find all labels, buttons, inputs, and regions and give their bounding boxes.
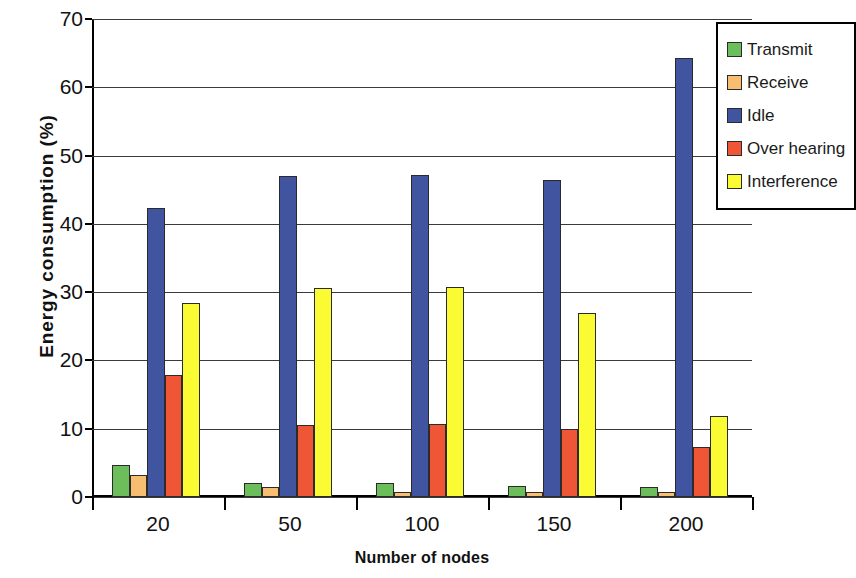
y-axis-tick-mark — [85, 18, 92, 20]
bar[interactable] — [561, 429, 579, 497]
bar[interactable] — [165, 375, 183, 497]
x-axis-tick-label: 50 — [224, 512, 356, 536]
legend-item[interactable]: Interference — [718, 165, 854, 198]
y-axis-tick-label: 10 — [60, 417, 83, 441]
bar[interactable] — [314, 288, 332, 497]
x-axis-tick-labels: 2050100150200 — [92, 512, 752, 536]
x-axis-tick-label: 20 — [92, 512, 224, 536]
bar[interactable] — [578, 313, 596, 497]
bar[interactable] — [508, 486, 526, 497]
bar[interactable] — [640, 487, 658, 497]
y-axis-tick-label: 50 — [60, 144, 83, 168]
bar[interactable] — [429, 424, 447, 497]
x-axis-tick-label: 150 — [488, 512, 620, 536]
legend-item[interactable]: Over hearing — [718, 132, 854, 165]
x-axis-tick-label: 100 — [356, 512, 488, 536]
bar[interactable] — [543, 180, 561, 497]
legend-item[interactable]: Idle — [718, 99, 854, 132]
y-axis-tick-label: 40 — [60, 212, 83, 236]
chart-legend: TransmitReceiveIdleOver hearingInterfere… — [716, 22, 856, 210]
legend-label: Over hearing — [747, 139, 845, 159]
legend-label: Receive — [747, 73, 808, 93]
bar[interactable] — [446, 287, 464, 497]
legend-label: Transmit — [747, 40, 813, 60]
bar-group — [356, 19, 488, 497]
y-axis-tick-mark — [85, 291, 92, 293]
y-axis-tick-label: 20 — [60, 348, 83, 372]
bar-group — [224, 19, 356, 497]
legend-color-swatch — [727, 42, 742, 57]
legend-color-swatch — [727, 141, 742, 156]
bar-group — [488, 19, 620, 497]
bar[interactable] — [376, 483, 394, 497]
x-axis-tick-mark — [488, 497, 490, 510]
legend-color-swatch — [727, 174, 742, 189]
bar[interactable] — [297, 425, 315, 497]
x-axis-ticks — [92, 497, 752, 511]
x-axis-tick-mark — [752, 497, 754, 510]
bar-group-bars — [508, 19, 596, 497]
bar[interactable] — [130, 475, 148, 497]
x-axis-tick-label: 200 — [620, 512, 752, 536]
y-axis-tick-label: 70 — [60, 7, 83, 31]
y-axis-tick-mark — [85, 223, 92, 225]
bar[interactable] — [411, 175, 429, 497]
bar-group-bars — [112, 19, 200, 497]
legend-item[interactable]: Transmit — [718, 33, 854, 66]
x-axis-title: Number of nodes — [92, 549, 752, 567]
bar[interactable] — [244, 483, 262, 497]
bar-group-bars — [376, 19, 464, 497]
bar-groups — [92, 19, 752, 497]
bar-group-bars — [244, 19, 332, 497]
x-axis-tick-mark — [92, 497, 94, 510]
y-axis-tick-mark — [85, 86, 92, 88]
y-axis-tick-label: 0 — [71, 485, 83, 509]
x-axis-tick-mark — [224, 497, 226, 510]
bar[interactable] — [710, 416, 728, 497]
y-axis-tick-mark — [85, 496, 92, 498]
bar[interactable] — [262, 487, 280, 497]
y-axis-tick-label: 60 — [60, 75, 83, 99]
plot-area: 010203040506070 — [92, 19, 752, 497]
legend-label: Idle — [747, 106, 774, 126]
legend-item[interactable]: Receive — [718, 66, 854, 99]
y-axis-tick-label: 30 — [60, 280, 83, 304]
bar[interactable] — [279, 176, 297, 497]
bar[interactable] — [147, 208, 165, 497]
x-axis-tick-mark — [620, 497, 622, 510]
bar-group — [92, 19, 224, 497]
bar[interactable] — [112, 465, 130, 497]
y-axis-title: Energy consumption (%) — [36, 6, 58, 466]
legend-color-swatch — [727, 108, 742, 123]
bar-group-bars — [640, 19, 728, 497]
bar[interactable] — [693, 447, 711, 497]
bar[interactable] — [182, 303, 200, 497]
y-axis-tick-mark — [85, 428, 92, 430]
y-axis-tick-mark — [85, 359, 92, 361]
legend-label: Interference — [747, 172, 838, 192]
y-axis-tick-mark — [85, 155, 92, 157]
legend-color-swatch — [727, 75, 742, 90]
bar[interactable] — [675, 58, 693, 497]
x-axis-tick-mark — [356, 497, 358, 510]
